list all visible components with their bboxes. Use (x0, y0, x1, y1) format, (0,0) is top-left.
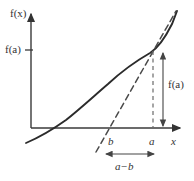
x-axis-label: x (171, 136, 176, 147)
f-of-a-measure-label: f(a) (168, 79, 184, 90)
point-b-label: b (108, 136, 114, 147)
y-axis-label: f(x) (10, 8, 27, 19)
f-of-a-axis-label: f(a) (5, 44, 21, 55)
function-curve (26, 11, 177, 143)
a-minus-b-measure-label: a−b (115, 161, 133, 172)
point-a-label: a (149, 136, 155, 147)
tangent-line (96, 11, 176, 152)
diagram-canvas (0, 0, 194, 181)
tangent-line-diagram: f(x) f(a) f(a) b a x a−b (0, 0, 194, 181)
